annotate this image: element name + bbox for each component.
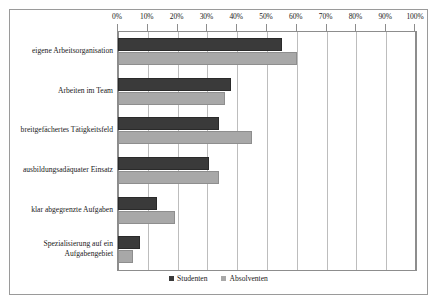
x-axis-tick-label: 40% <box>229 12 242 21</box>
category-label: ausbildungsadäquater Einsatz <box>14 165 113 175</box>
bar-studenten <box>118 117 219 130</box>
legend-swatch-icon <box>221 276 226 281</box>
bar-studenten <box>118 78 231 91</box>
category-label: klar abgegrenzte Aufgaben <box>14 205 113 215</box>
bar-absolventen <box>118 131 252 144</box>
x-axis-tick-label: 30% <box>200 12 213 21</box>
x-axis-tick-label: 50% <box>259 12 272 21</box>
bar-group <box>118 157 416 185</box>
category-label: Spezialisierung auf ein Aufgabengebiet <box>14 239 113 259</box>
x-axis-tick-label: 80% <box>349 12 362 21</box>
x-axis-tick-label: 10% <box>140 12 153 21</box>
legend-swatch-icon <box>169 276 174 281</box>
x-axis-tick-label: 70% <box>319 12 332 21</box>
bar-studenten <box>118 38 282 51</box>
bar-group <box>118 117 416 145</box>
category-label: breitgefächertes Tätigkeitsfeld <box>14 125 113 135</box>
x-axis-tick-label: 0% <box>112 12 122 21</box>
bar-absolventen <box>118 92 225 105</box>
category-label: Arbeiten im Team <box>14 86 113 96</box>
legend-label: Absolventen <box>229 274 267 283</box>
legend-item[interactable]: Studenten <box>169 274 207 283</box>
x-axis-tick-label: 100% <box>406 12 423 21</box>
bar-group <box>118 38 416 66</box>
plot-area <box>117 31 417 271</box>
chart-legend: StudentenAbsolventen <box>10 274 427 283</box>
legend-label: Studenten <box>177 274 207 283</box>
bar-absolventen <box>118 52 297 65</box>
x-axis-tick-label: 90% <box>378 12 391 21</box>
legend-item[interactable]: Absolventen <box>221 274 267 283</box>
bar-group <box>118 197 416 225</box>
category-label: eigene Arbeitsorganisation <box>14 46 113 56</box>
bar-group <box>118 78 416 106</box>
bar-group <box>118 236 416 264</box>
bar-chart: 0%10%20%30%40%50%60%70%80%90%100% eigene… <box>10 10 427 294</box>
bar-absolventen <box>118 250 133 263</box>
bar-studenten <box>118 197 157 210</box>
bar-groups <box>118 32 416 270</box>
bar-studenten <box>118 157 209 170</box>
bar-absolventen <box>118 211 175 224</box>
bar-studenten <box>118 236 140 249</box>
y-axis-category-labels: eigene ArbeitsorganisationArbeiten im Te… <box>14 31 115 269</box>
bar-absolventen <box>118 171 219 184</box>
chart-figure-frame: 0%10%20%30%40%50%60%70%80%90%100% eigene… <box>9 9 428 295</box>
x-axis-tick-label: 60% <box>289 12 302 21</box>
x-axis-tick-label: 20% <box>170 12 183 21</box>
